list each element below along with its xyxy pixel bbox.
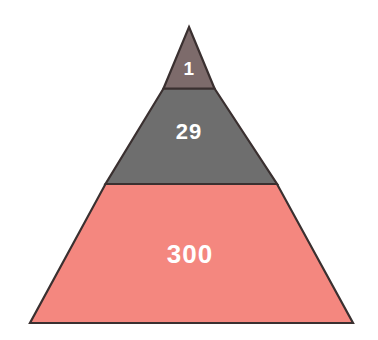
- pyramid-tier-middle-label: 29: [176, 119, 202, 144]
- pyramid-chart-canvas: 300 29 1: [0, 0, 378, 340]
- pyramid-tier-top-label: 1: [183, 58, 194, 79]
- pyramid-chart: 300 29 1: [0, 0, 378, 340]
- pyramid-tier-bottom-label: 300: [167, 239, 213, 269]
